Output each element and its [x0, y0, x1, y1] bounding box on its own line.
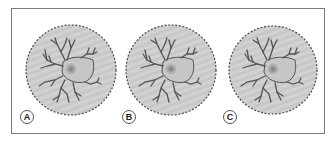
panel-a-disc — [26, 25, 116, 115]
panel-c-disc — [229, 26, 317, 114]
panel-b-disc — [126, 25, 216, 115]
panel-label-a: A — [20, 110, 34, 124]
panel-label-c: C — [223, 110, 237, 124]
panel-label-b: B — [122, 110, 136, 124]
figure-canvas — [0, 0, 335, 144]
